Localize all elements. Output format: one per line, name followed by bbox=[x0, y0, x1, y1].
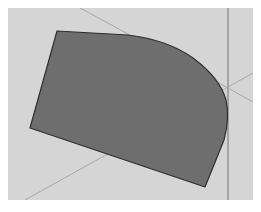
modeling-viewport[interactable] bbox=[8, 8, 253, 200]
face-shape[interactable] bbox=[30, 31, 228, 187]
red-axis-right-line bbox=[228, 88, 253, 102]
scene-canvas[interactable] bbox=[8, 8, 253, 200]
